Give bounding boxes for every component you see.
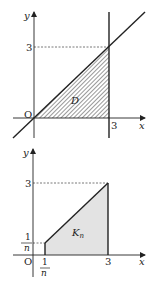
x-tick-3-label: 3 <box>111 120 117 131</box>
x-axis-label: x <box>139 120 145 131</box>
line-y-equals-x <box>13 12 145 138</box>
origin-label: O <box>24 109 32 120</box>
y-tick-1n-numerator: 1 <box>25 232 31 242</box>
y-tick-1n-denominator: n <box>24 243 30 253</box>
figure-bottom: y 3 1 n O 1 n 3 x Kn <box>13 147 145 278</box>
x-tick-3-label: 3 <box>105 256 111 267</box>
origin-label: O <box>24 256 32 267</box>
x-tick-1n-numerator: 1 <box>42 257 48 267</box>
diagram-canvas: y 3 O 3 x D y 3 1 n O 1 n 3 x <box>0 0 155 289</box>
y-tick-3-label: 3 <box>25 178 31 189</box>
x-axis-label: x <box>139 256 145 267</box>
region-kn-subscript: n <box>79 232 84 240</box>
figure-top: y 3 O 3 x D <box>13 10 145 138</box>
y-axis-label: y <box>23 10 30 21</box>
region-d-label: D <box>70 95 79 106</box>
x-tick-1n-denominator: n <box>41 268 47 278</box>
y-axis-label: y <box>22 147 29 158</box>
region-kn <box>45 183 108 255</box>
y-tick-3-label: 3 <box>26 42 32 53</box>
